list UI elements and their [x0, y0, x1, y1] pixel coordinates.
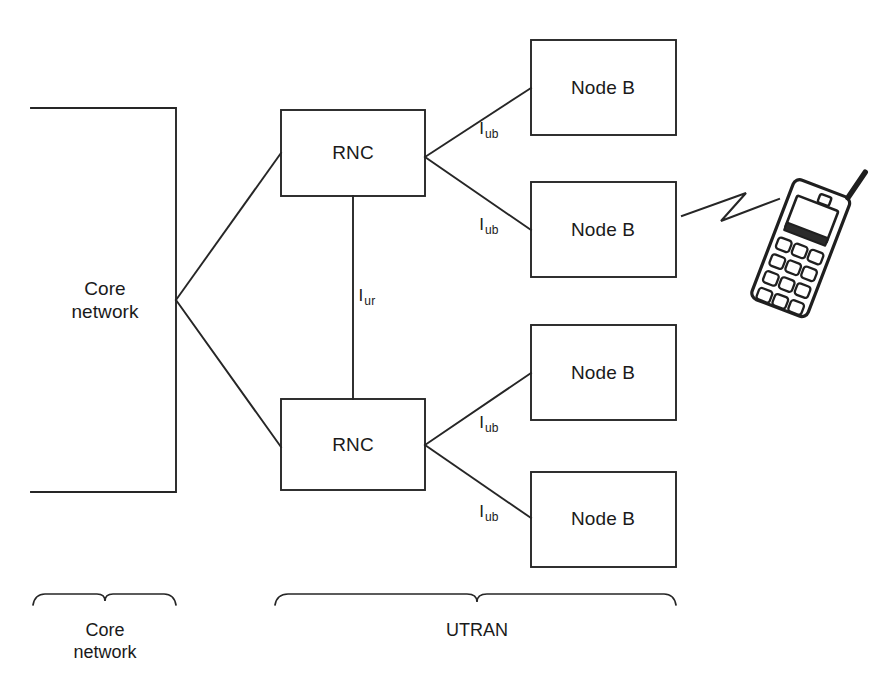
rnc-bottom-label: RNC	[332, 433, 373, 456]
iur-sub: ur	[363, 294, 375, 308]
node-b-3-label: Node B	[571, 361, 635, 384]
rnc-top-label: RNC	[332, 141, 373, 164]
interface-label-iub-1: Iub	[479, 119, 498, 141]
iub-4-sub: ub	[484, 510, 499, 524]
interface-label-iub-2: Iub	[479, 215, 498, 237]
link-iub-2	[425, 157, 531, 230]
brace-core-network	[33, 594, 176, 605]
interface-label-iub-4: Iub	[479, 502, 498, 524]
iub-2-sub: ub	[484, 223, 499, 237]
brace-label-utran: UTRAN	[446, 620, 508, 642]
brace-utran	[275, 594, 676, 605]
diagram-canvas	[0, 0, 880, 674]
interface-label-iur: Iur	[359, 286, 376, 308]
link-core-to-rnc-top	[176, 153, 281, 300]
iub-1-sub: ub	[484, 127, 499, 141]
iub-3-sub: ub	[484, 421, 499, 435]
brace-label-core-network: Core network	[73, 620, 136, 664]
link-iub-4	[425, 445, 531, 518]
link-iub-1	[425, 88, 531, 157]
radio-link-lightning-icon	[682, 193, 779, 221]
node-b-2-label: Node B	[571, 218, 635, 241]
handset-antenna-icon	[848, 170, 865, 201]
node-b-1-label: Node B	[571, 76, 635, 99]
link-iub-3	[425, 373, 531, 445]
link-core-to-rnc-bottom	[176, 300, 281, 447]
mobile-handset-illustration	[750, 150, 865, 320]
network-architecture-diagram: Core network RNC RNC Node B Node B Node …	[0, 0, 880, 674]
interface-label-iub-3: Iub	[479, 413, 498, 435]
core-network-label: Core network	[71, 277, 138, 323]
node-b-4-label: Node B	[571, 507, 635, 530]
